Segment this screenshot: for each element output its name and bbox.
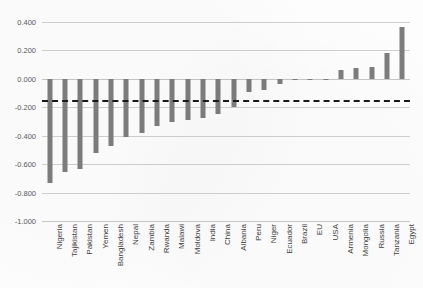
bar[interactable] xyxy=(277,79,282,84)
bar[interactable] xyxy=(139,79,144,133)
bar[interactable] xyxy=(246,79,251,92)
y-axis-labels: 0.4000.2000.000-0.200-0.400-0.600-0.800-… xyxy=(0,22,40,221)
bar[interactable] xyxy=(400,27,405,79)
bar-slot xyxy=(119,22,134,221)
chart-container: 0.4000.2000.000-0.200-0.400-0.600-0.800-… xyxy=(0,0,423,288)
bar[interactable] xyxy=(231,79,236,107)
x-axis-label-slot: Tajikistan xyxy=(57,222,72,288)
bar-slot xyxy=(195,22,210,221)
y-axis-tick-label: -0.800 xyxy=(15,188,36,197)
plot-area xyxy=(42,22,410,221)
x-axis-label-slot: Brazil xyxy=(287,222,302,288)
bar-slot xyxy=(180,22,195,221)
y-axis-tick-label: -0.400 xyxy=(15,131,36,140)
bar-slot xyxy=(241,22,256,221)
y-axis-tick-label: 0.000 xyxy=(17,74,36,83)
bar-slot xyxy=(364,22,379,221)
y-axis-tick-label: 0.200 xyxy=(17,46,36,55)
x-axis-label-slot: China xyxy=(211,222,226,288)
bar-slot xyxy=(73,22,88,221)
x-axis-label-slot: Tanzania xyxy=(379,222,394,288)
bar-slot xyxy=(165,22,180,221)
bar-slot xyxy=(257,22,272,221)
bar[interactable] xyxy=(93,79,98,153)
bar[interactable] xyxy=(384,53,389,79)
bar-slot xyxy=(272,22,287,221)
bar-slot xyxy=(395,22,410,221)
bar-slot xyxy=(88,22,103,221)
bar-slot xyxy=(349,22,364,221)
bar[interactable] xyxy=(308,79,313,80)
x-axis-label-slot: Bangladesh xyxy=(103,222,118,288)
x-axis-label-slot: Malawi xyxy=(165,222,180,288)
x-axis-label-slot: Ecuador xyxy=(272,222,287,288)
x-axis-label-slot: USA xyxy=(318,222,333,288)
x-axis-tick-label: Egypt xyxy=(407,224,416,244)
x-axis-label-slot: Russia xyxy=(364,222,379,288)
y-axis-tick-label: -0.600 xyxy=(15,160,36,169)
bar[interactable] xyxy=(262,79,267,90)
bar[interactable] xyxy=(369,67,374,79)
bar-series xyxy=(42,22,410,221)
x-axis-label-slot: EU xyxy=(303,222,318,288)
bar[interactable] xyxy=(323,79,328,80)
bar-slot xyxy=(287,22,302,221)
x-axis-label-slot: Nigeria xyxy=(42,222,57,288)
bar-slot xyxy=(318,22,333,221)
bar[interactable] xyxy=(108,79,113,147)
bar[interactable] xyxy=(292,79,297,80)
bar-slot xyxy=(226,22,241,221)
bar[interactable] xyxy=(200,79,205,118)
bar[interactable] xyxy=(62,79,67,172)
x-axis-label-slot: Albania xyxy=(226,222,241,288)
threshold-line xyxy=(42,100,410,102)
bar-slot xyxy=(333,22,348,221)
x-axis-labels: NigeriaTajikistanPakistanYemenBangladesh… xyxy=(42,222,410,288)
y-axis-tick-label: -1.000 xyxy=(15,217,36,226)
x-axis-label-slot: Yemen xyxy=(88,222,103,288)
bar[interactable] xyxy=(216,79,221,115)
x-axis-label-slot: Mongolia xyxy=(349,222,364,288)
bar[interactable] xyxy=(354,68,359,79)
bar-slot xyxy=(379,22,394,221)
bar[interactable] xyxy=(338,70,343,79)
x-axis-label-slot: Niger xyxy=(257,222,272,288)
bar[interactable] xyxy=(154,79,159,126)
bar-slot xyxy=(211,22,226,221)
bar-slot xyxy=(103,22,118,221)
bar[interactable] xyxy=(124,79,129,137)
x-axis-label-slot: Nepal xyxy=(119,222,134,288)
bar-slot xyxy=(303,22,318,221)
x-axis-label-slot: Pakistan xyxy=(73,222,88,288)
bar-slot xyxy=(57,22,72,221)
x-axis-label-slot: Moldova xyxy=(180,222,195,288)
bar-slot xyxy=(134,22,149,221)
bar-slot xyxy=(149,22,164,221)
bar-slot xyxy=(42,22,57,221)
y-axis-tick-label: 0.400 xyxy=(17,18,36,27)
x-axis-label-slot: Peru xyxy=(241,222,256,288)
bar[interactable] xyxy=(47,79,52,183)
x-axis-label-slot: Armenia xyxy=(333,222,348,288)
bar[interactable] xyxy=(78,79,83,169)
x-axis-label-slot: Egypt xyxy=(395,222,410,288)
x-axis-label-slot: India xyxy=(195,222,210,288)
y-axis-tick-label: -0.200 xyxy=(15,103,36,112)
x-axis-label-slot: Zambia xyxy=(134,222,149,288)
x-axis-label-slot: Rwanda xyxy=(149,222,164,288)
